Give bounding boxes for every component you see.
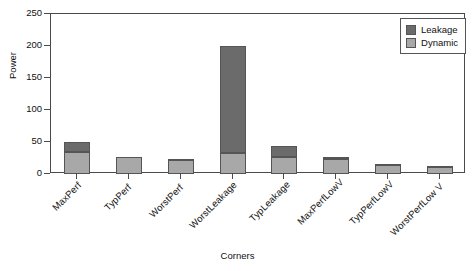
bar-segment-dynamic — [168, 160, 194, 174]
y-axis-tick-label: 100 — [0, 104, 50, 114]
bar-maxperf — [64, 142, 90, 174]
bar-segment-dynamic — [271, 157, 297, 174]
x-axis-tick-label: WorstPerfLow V — [388, 181, 445, 238]
x-axis-tick-mark — [180, 173, 181, 179]
bar-segment-dynamic — [375, 165, 401, 174]
legend-swatch-dynamic-icon — [406, 38, 416, 48]
x-axis-tick-mark — [76, 173, 77, 179]
bar-typleakage — [271, 146, 297, 174]
legend: Leakage Dynamic — [400, 18, 466, 54]
bar-segment-dynamic — [323, 159, 349, 174]
x-axis-tick-label: TypPerfLowV — [347, 179, 396, 228]
x-axis-tick-mark — [439, 173, 440, 179]
legend-swatch-leakage-icon — [406, 25, 416, 35]
x-axis-tick-label: WorstLeakage — [187, 179, 239, 231]
y-axis-tick-label: 0 — [0, 168, 50, 178]
bar-typperflowv — [375, 164, 401, 174]
x-axis-tick-label: WorstPerf — [147, 182, 185, 220]
bar-typperf — [116, 157, 142, 174]
power-by-corner-bar-chart: Power 050100150200250 MaxPerfTypPerfWors… — [0, 0, 475, 271]
bar-segment-dynamic — [427, 167, 453, 174]
x-axis-tick-mark — [232, 173, 233, 179]
x-axis-tick-mark — [128, 173, 129, 179]
y-axis-tick-label: 200 — [0, 40, 50, 50]
x-axis-tick-label: TypLeakage — [247, 178, 292, 223]
legend-item-leakage: Leakage — [406, 23, 458, 36]
y-axis-tick-label: 250 — [0, 8, 50, 18]
legend-item-dynamic: Dynamic — [406, 36, 458, 49]
x-axis-tick-label: MaxPerf — [50, 179, 83, 212]
x-axis-title: Corners — [0, 250, 475, 261]
bar-maxperflowv — [323, 157, 349, 174]
bar-worstperflowv — [427, 166, 453, 174]
bar-segment-dynamic — [116, 157, 142, 174]
x-axis-tick-label: MaxPerfLowV — [295, 177, 345, 227]
legend-label-leakage: Leakage — [421, 23, 457, 36]
bar-segment-dynamic — [220, 153, 246, 174]
bar-segment-leakage — [271, 146, 297, 157]
bar-segment-leakage — [64, 142, 90, 152]
legend-label-dynamic: Dynamic — [421, 36, 458, 49]
y-axis-tick-label: 150 — [0, 72, 50, 82]
y-axis-tick-mark — [44, 173, 50, 174]
bar-worstperf — [168, 159, 194, 174]
x-axis-tick-label: TypPerf — [102, 181, 133, 212]
bar-worstleakage — [220, 46, 246, 174]
bar-segment-leakage — [220, 46, 246, 153]
y-axis-tick-label: 50 — [0, 136, 50, 146]
bar-segment-dynamic — [64, 152, 90, 174]
